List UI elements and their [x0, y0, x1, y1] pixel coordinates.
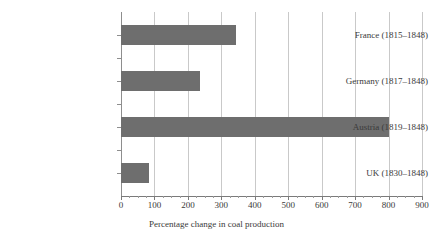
x-tick-minor	[238, 196, 239, 198]
bar	[121, 25, 236, 45]
x-tick-minor	[297, 196, 298, 198]
x-tick-minor	[372, 196, 373, 198]
y-axis-tick	[117, 173, 121, 174]
x-tick-minor	[138, 196, 139, 198]
x-axis-title: Percentage change in coal production	[0, 219, 433, 230]
y-axis-tick	[117, 35, 121, 36]
x-tick-minor	[363, 196, 364, 198]
x-tick-minor	[246, 196, 247, 198]
category-label: Germany (1817–1848)	[318, 76, 433, 87]
x-tick-minor	[163, 196, 164, 198]
y-axis-tick-boundary	[117, 150, 121, 151]
x-tick-minor	[230, 196, 231, 198]
x-tick-minor	[196, 196, 197, 198]
category-label: Austria (1819–1848)	[318, 122, 433, 133]
x-tick-label: 300	[206, 200, 236, 211]
x-tick-label: 200	[173, 200, 203, 211]
x-tick-label: 600	[307, 200, 337, 211]
x-tick-minor	[129, 196, 130, 198]
category-label: UK (1830–1848)	[318, 168, 433, 179]
x-tick-minor	[205, 196, 206, 198]
y-axis-tick	[117, 127, 121, 128]
x-tick-minor	[146, 196, 147, 198]
y-axis-tick-boundary	[117, 104, 121, 105]
x-tick-minor	[338, 196, 339, 198]
x-tick-label: 400	[240, 200, 270, 211]
x-tick-label: 900	[407, 200, 433, 211]
x-tick-minor	[313, 196, 314, 198]
bar	[121, 163, 149, 183]
gridline-400	[255, 12, 256, 196]
x-tick-label: 0	[106, 200, 136, 211]
x-tick-minor	[397, 196, 398, 198]
x-tick-label: 500	[273, 200, 303, 211]
x-tick-minor	[280, 196, 281, 198]
x-tick-minor	[305, 196, 306, 198]
gridline-500	[288, 12, 289, 196]
y-axis-tick-boundary	[117, 58, 121, 59]
x-tick-minor	[414, 196, 415, 198]
x-tick-minor	[347, 196, 348, 198]
x-tick-minor	[263, 196, 264, 198]
bar	[121, 71, 200, 91]
x-tick-label: 800	[374, 200, 404, 211]
x-tick-minor	[380, 196, 381, 198]
x-tick-minor	[272, 196, 273, 198]
category-label: France (1815–1848)	[318, 30, 433, 41]
x-tick-minor	[330, 196, 331, 198]
x-tick-minor	[213, 196, 214, 198]
x-tick-minor	[171, 196, 172, 198]
x-tick-minor	[405, 196, 406, 198]
x-tick-label: 700	[340, 200, 370, 211]
y-axis-tick	[117, 81, 121, 82]
x-tick-minor	[180, 196, 181, 198]
x-tick-label: 100	[139, 200, 169, 211]
bar-chart: 0100200300400500600700800900 France (181…	[0, 0, 433, 241]
